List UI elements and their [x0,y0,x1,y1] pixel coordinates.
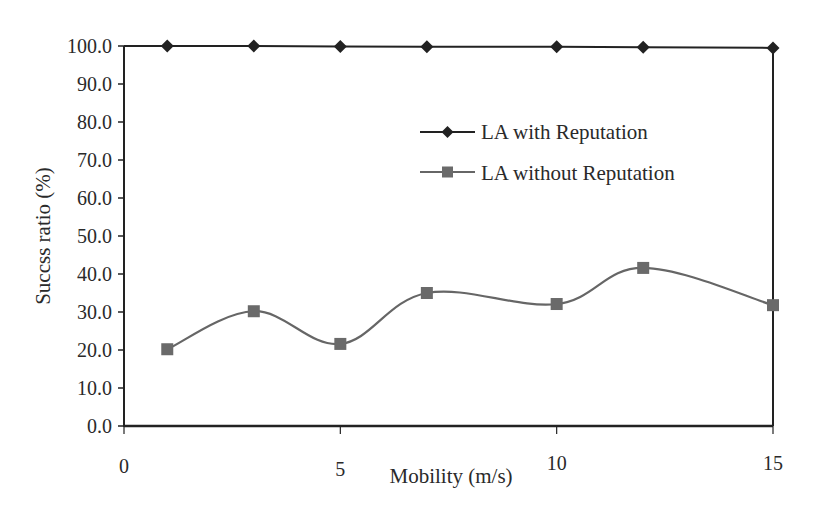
y-tick-label: 90.0 [77,73,112,95]
legend-item-with-reputation: LA with Reputation [420,120,648,144]
legend-label: LA without Reputation [481,161,675,185]
y-tick-label: 40.0 [77,263,112,285]
data-point [550,40,563,53]
data-point [421,287,433,299]
data-point [334,338,346,350]
diamond-marker-icon [442,126,454,138]
x-axis-title: Mobility (m/s) [389,464,512,488]
series-without-reputation [161,262,779,355]
data-point [637,262,649,274]
y-tick-label: 70.0 [77,149,112,171]
data-point [420,40,433,53]
y-axis-title: Succss ratio (%) [31,167,55,305]
legend-item-without-reputation: LA without Reputation [420,161,675,185]
data-point [767,41,780,54]
y-tick-label: 100.0 [67,35,112,57]
series-layer [124,40,780,356]
y-tick-label: 10.0 [77,377,112,399]
x-axis: 051015 [119,48,783,480]
data-point [161,343,173,355]
x-tick-label: 0 [119,455,129,477]
y-tick-label: 60.0 [77,187,112,209]
square-marker-icon [442,167,453,178]
data-point [637,41,650,54]
x-tick-label: 10 [547,452,567,474]
data-point [161,40,174,53]
data-point [334,40,347,53]
y-tick-label: 80.0 [77,111,112,133]
data-point [551,298,563,310]
y-axis: 0.010.020.030.040.050.060.070.080.090.01… [67,35,124,437]
legend-label: LA with Reputation [481,120,648,144]
series-with-reputation [124,40,780,55]
y-tick-label: 50.0 [77,225,112,247]
data-point [247,40,260,53]
y-tick-label: 20.0 [77,339,112,361]
y-tick-label: 0.0 [87,415,112,437]
x-tick-label: 15 [763,452,783,474]
legend: LA with Reputation LA without Reputation [420,120,675,185]
line-chart: 0.010.020.030.040.050.060.070.080.090.01… [0,0,813,516]
data-point [248,305,260,317]
data-point [767,299,779,311]
y-tick-label: 30.0 [77,301,112,323]
x-tick-label: 5 [335,458,345,480]
